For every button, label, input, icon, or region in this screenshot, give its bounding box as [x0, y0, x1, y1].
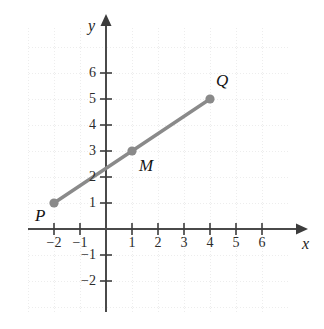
y-tick-label-6: 6	[78, 66, 96, 80]
y-tick-label--1: −1	[72, 248, 96, 262]
y-axis-arrowhead	[101, 14, 112, 26]
point-marker-q	[205, 94, 214, 103]
y-tick-label-3: 3	[78, 144, 96, 158]
y-tick-label-5: 5	[78, 92, 96, 106]
x-tick-label-1: 1	[124, 236, 140, 250]
x-axis-arrowhead	[296, 224, 308, 235]
y-axis-label: y	[88, 18, 95, 34]
grid-area	[28, 28, 288, 312]
point-marker-p	[49, 198, 58, 207]
x-tick-label-3: 3	[176, 236, 192, 250]
coordinate-plane-figure: −2 −1 1 2 3 4 5 6 6 5 4 3 2 1 −1 −2 x y …	[0, 0, 324, 329]
y-tick-label-2: 2	[78, 170, 96, 184]
y-tick-label-1: 1	[78, 196, 96, 210]
y-tick-label--2: −2	[72, 274, 96, 288]
x-tick-label-2: 2	[150, 236, 166, 250]
point-label-q: Q	[216, 72, 228, 89]
x-tick-label-6: 6	[254, 236, 270, 250]
x-tick-label--2: −2	[44, 236, 64, 250]
point-label-p: P	[35, 207, 45, 224]
point-label-m: M	[139, 157, 153, 174]
point-marker-m	[127, 146, 136, 155]
y-tick-label-4: 4	[78, 118, 96, 132]
x-axis-label: x	[302, 236, 309, 252]
x-tick-label-4: 4	[202, 236, 218, 250]
graph-canvas	[0, 0, 324, 329]
x-tick-label-5: 5	[228, 236, 244, 250]
